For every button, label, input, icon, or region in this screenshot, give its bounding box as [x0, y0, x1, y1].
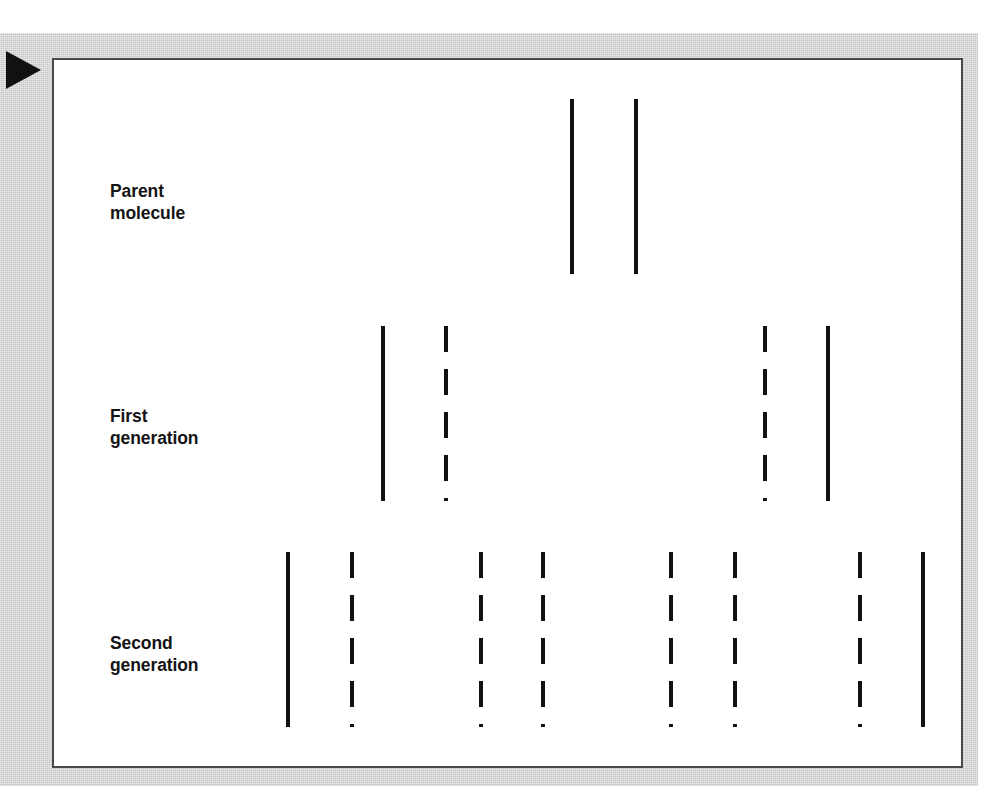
strand-first-generation-1-solid	[381, 326, 385, 501]
strand-second-generation-8-solid	[921, 552, 925, 727]
play-triangle-icon	[6, 51, 41, 89]
row-label-parent: Parent molecule	[110, 180, 185, 224]
strand-second-generation-7-dashed	[858, 552, 862, 727]
strand-second-generation-6-dashed	[733, 552, 737, 727]
row-label-second-generation: Second generation	[110, 632, 198, 676]
strand-first-generation-2-dashed	[444, 326, 448, 501]
strand-parent-1-solid	[570, 99, 574, 274]
strand-second-generation-5-dashed	[669, 552, 673, 727]
strand-second-generation-1-solid	[286, 552, 290, 727]
strand-second-generation-2-dashed	[350, 552, 354, 727]
strand-second-generation-4-dashed	[541, 552, 545, 727]
figure-root: Parent moleculeFirst generationSecond ge…	[0, 0, 1004, 808]
strand-first-generation-4-solid	[826, 326, 830, 501]
strand-second-generation-3-dashed	[479, 552, 483, 727]
figure-plate: Parent moleculeFirst generationSecond ge…	[52, 58, 963, 768]
strand-first-generation-3-dashed	[763, 326, 767, 501]
row-label-first-generation: First generation	[110, 405, 198, 449]
strand-parent-2-solid	[634, 99, 638, 274]
